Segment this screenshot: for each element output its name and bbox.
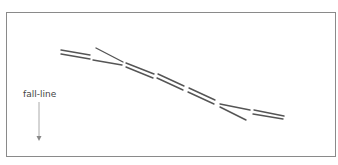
ski-tracks xyxy=(61,48,284,120)
fall-line-label: fall-line xyxy=(23,89,56,99)
ski-tracks-diagram xyxy=(0,0,338,165)
fall-line-arrow-icon xyxy=(37,102,42,141)
track-segment-2a xyxy=(96,48,123,62)
track-segment-2b xyxy=(93,60,122,65)
